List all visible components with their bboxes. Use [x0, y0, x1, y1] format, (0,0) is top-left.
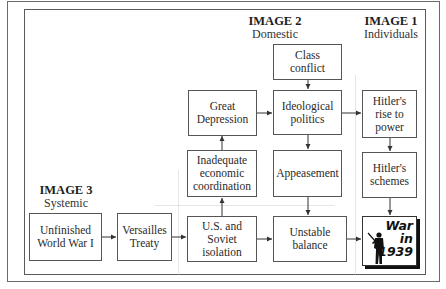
node-appeasement: Appeasement: [273, 150, 342, 197]
node-great-depression: Great Depression: [188, 90, 257, 136]
node-hitlers-schemes: Hitler's schemes: [362, 152, 417, 198]
node-hitlers-rise-to-power: Hitler's rise to power: [362, 90, 417, 138]
node-label: Hitler's rise to power: [373, 95, 406, 134]
node-label: Hitler's schemes: [370, 162, 409, 188]
node-us-soviet-isolation: U.S. and Soviet isolation: [187, 216, 257, 262]
node-label: Unfinished World War I: [37, 224, 94, 250]
node-label: Class conflict: [290, 49, 325, 75]
node-versailles-treaty: Versailles Treaty: [117, 213, 172, 261]
node-class-conflict: Class conflict: [273, 44, 342, 80]
node-label: Unstable balance: [290, 226, 331, 252]
node-inadequate-economic-coordination: Inadequate economic coordination: [187, 150, 257, 197]
node-label: Appeasement: [276, 167, 339, 180]
node-label: U.S. and Soviet isolation: [202, 220, 242, 259]
node-ideological-politics: Ideological politics: [273, 90, 342, 135]
node-label: Great Depression: [197, 100, 249, 126]
node-unfinished-world-war-i: Unfinished World War I: [29, 213, 102, 261]
node-label: Versailles Treaty: [122, 224, 167, 250]
node-war-in-1939: War in 1939: [362, 216, 417, 266]
node-unstable-balance: Unstable balance: [273, 216, 347, 262]
war-label-line3: 1939: [378, 245, 413, 258]
node-label: Inadequate economic coordination: [193, 154, 251, 193]
node-label: Ideological politics: [282, 100, 334, 126]
war-label: War in 1939: [378, 219, 413, 258]
